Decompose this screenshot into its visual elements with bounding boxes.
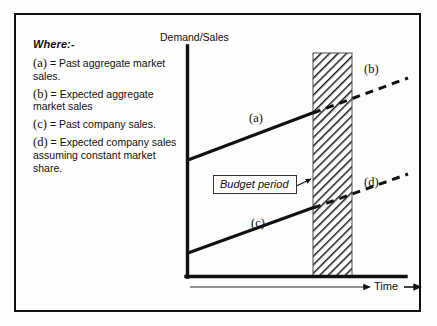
figure-container: Where:- (a)= Past aggregate market sales… [0,0,437,326]
legend-eq-a: = [50,57,56,69]
legend-text-c: Past company sales. [59,118,156,130]
curve-label-c: (c) [251,216,265,231]
curve-label-a: (a) [249,111,263,126]
legend-eq-c: = [50,118,56,130]
x-axis-label: Time [374,280,398,292]
legend-block: Where:- (a)= Past aggregate market sales… [33,38,185,180]
legend-item-b: (b)= Expected aggregate market sales [33,88,185,113]
legend-item-d: (d)= Expected company sales assuming con… [33,136,185,174]
legend-eq-d: = [51,136,57,148]
legend-eq-b: = [51,88,57,100]
legend-key-a: (a) [33,56,50,70]
legend-key-c: (c) [33,117,50,131]
legend-key-d: (d) [33,135,51,149]
y-axis-label: Demand/Sales [160,31,229,43]
legend-item-c: (c)= Past company sales. [33,118,185,131]
legend-item-a: (a)= Past aggregate market sales. [33,57,185,82]
curve-label-d: (d) [364,175,379,190]
budget-period-callout: Budget period [213,175,297,194]
legend-key-b: (b) [33,87,51,101]
curve-label-b: (b) [364,62,379,77]
